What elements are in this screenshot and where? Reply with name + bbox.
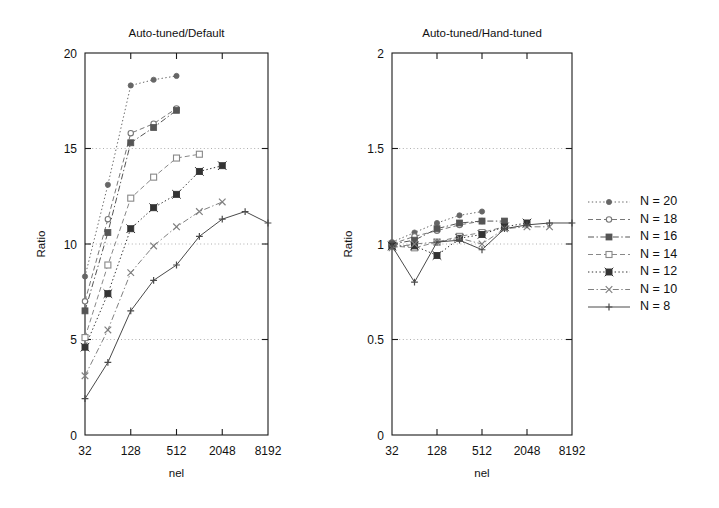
marker-cross-x bbox=[127, 269, 134, 276]
marker-filled-square-x bbox=[218, 161, 227, 170]
marker-cross-x bbox=[479, 241, 486, 248]
series-line bbox=[85, 166, 222, 347]
x-axis-label: nel bbox=[169, 467, 184, 479]
x-tick-label: 128 bbox=[427, 444, 447, 458]
marker-filled-square-x bbox=[410, 242, 419, 251]
x-tick-label: 512 bbox=[472, 444, 492, 458]
marker-plus bbox=[82, 395, 89, 402]
marker-open-square bbox=[128, 195, 134, 201]
marker-cross-x bbox=[219, 199, 226, 206]
x-tick-label: 2048 bbox=[514, 444, 541, 458]
marker-filled-square bbox=[457, 220, 463, 226]
marker-filled-square bbox=[606, 234, 612, 240]
x-axis-label: nel bbox=[474, 467, 489, 479]
marker-filled-square bbox=[479, 218, 485, 224]
marker-open-square bbox=[174, 155, 180, 161]
marker-filled-square-x bbox=[478, 230, 487, 239]
legend-label-12: N = 12 bbox=[640, 264, 677, 278]
marker-cross-x bbox=[105, 327, 112, 334]
x-tick-label: 8192 bbox=[255, 444, 282, 458]
marker-filled-square-x bbox=[149, 203, 158, 212]
marker-open-square bbox=[105, 262, 111, 268]
legend-label-18: N = 18 bbox=[640, 212, 677, 226]
series-line bbox=[392, 221, 505, 244]
chart-svg-left: Auto-tuned/Default0510152032128512204881… bbox=[0, 0, 330, 508]
y-tick-label: 2 bbox=[377, 47, 384, 61]
marker-open-circle bbox=[606, 217, 611, 222]
marker-cross-x bbox=[173, 224, 180, 231]
y-tick-label: 0 bbox=[70, 429, 77, 443]
marker-filled-square-x bbox=[126, 224, 135, 233]
x-tick-label: 512 bbox=[166, 444, 186, 458]
marker-filled-square-x bbox=[172, 190, 181, 199]
series-line bbox=[85, 154, 199, 337]
y-tick-label: 1 bbox=[377, 238, 384, 252]
chart-title: Auto-tuned/Default bbox=[129, 27, 226, 39]
marker-filled-circle bbox=[82, 274, 87, 279]
marker-filled-square bbox=[434, 226, 440, 232]
marker-filled-square-x bbox=[195, 167, 204, 176]
legend-label-16: N = 16 bbox=[640, 229, 677, 243]
marker-cross-x bbox=[606, 286, 613, 293]
chart-svg-right: Auto-tuned/Hand-tuned00.511.523212851220… bbox=[320, 0, 620, 508]
marker-cross-x bbox=[196, 208, 203, 215]
marker-filled-circle bbox=[606, 199, 611, 204]
x-tick-label: 2048 bbox=[209, 444, 236, 458]
legend-svg: N = 20N = 18N = 16N = 14N = 12N = 10N = … bbox=[580, 0, 719, 508]
marker-plus bbox=[411, 279, 418, 286]
y-tick-label: 15 bbox=[64, 142, 78, 156]
marker-filled-circle bbox=[128, 83, 133, 88]
marker-filled-circle bbox=[434, 220, 439, 225]
marker-filled-square bbox=[105, 230, 111, 236]
legend-panel: N = 20N = 18N = 16N = 14N = 12N = 10N = … bbox=[580, 0, 719, 508]
marker-filled-circle bbox=[479, 209, 484, 214]
chart-panel-auto-tuned-default: Auto-tuned/Default0510152032128512204881… bbox=[0, 0, 330, 508]
marker-plus bbox=[104, 359, 111, 366]
marker-filled-square bbox=[128, 140, 134, 146]
marker-filled-square bbox=[502, 218, 508, 224]
marker-filled-square-x bbox=[81, 343, 90, 352]
marker-open-circle bbox=[105, 216, 110, 221]
marker-filled-square-x bbox=[104, 289, 113, 298]
marker-filled-square bbox=[174, 107, 180, 113]
marker-filled-square bbox=[82, 308, 88, 314]
legend-label-14: N = 14 bbox=[640, 247, 677, 261]
series-line bbox=[85, 212, 268, 399]
y-tick-label: 5 bbox=[70, 333, 77, 347]
chart-panel-auto-tuned-hand-tuned: Auto-tuned/Hand-tuned00.511.523212851220… bbox=[320, 0, 620, 508]
marker-filled-circle bbox=[151, 77, 156, 82]
x-tick-label: 32 bbox=[78, 444, 92, 458]
y-tick-label: 1.5 bbox=[367, 142, 384, 156]
marker-open-circle bbox=[128, 131, 133, 136]
marker-filled-square bbox=[151, 124, 157, 130]
marker-plus bbox=[569, 220, 576, 227]
chart-title: Auto-tuned/Hand-tuned bbox=[422, 27, 542, 39]
y-tick-label: 20 bbox=[64, 47, 78, 61]
marker-open-square bbox=[196, 151, 202, 157]
y-axis-label: Ratio bbox=[35, 231, 47, 258]
y-tick-label: 10 bbox=[64, 238, 78, 252]
marker-filled-circle bbox=[174, 73, 179, 78]
series-line bbox=[85, 76, 177, 277]
marker-open-circle bbox=[82, 299, 87, 304]
marker-filled-square-x bbox=[605, 268, 614, 277]
y-tick-label: 0 bbox=[377, 429, 384, 443]
marker-plus bbox=[546, 220, 553, 227]
marker-open-square bbox=[82, 335, 88, 341]
marker-plus bbox=[606, 304, 613, 311]
marker-plus bbox=[242, 208, 249, 215]
y-axis-label: Ratio bbox=[342, 231, 354, 258]
marker-open-square bbox=[606, 252, 612, 258]
legend-label-8: N = 8 bbox=[640, 299, 670, 313]
marker-filled-circle bbox=[457, 213, 462, 218]
figure-root: Auto-tuned/Default0510152032128512204881… bbox=[0, 0, 719, 508]
x-tick-label: 128 bbox=[121, 444, 141, 458]
legend-label-20: N = 20 bbox=[640, 194, 677, 208]
marker-open-square bbox=[151, 174, 157, 180]
legend-label-10: N = 10 bbox=[640, 282, 677, 296]
marker-filled-square-x bbox=[433, 251, 442, 260]
y-tick-label: 0.5 bbox=[367, 333, 384, 347]
marker-filled-circle bbox=[105, 182, 110, 187]
x-tick-label: 32 bbox=[385, 444, 399, 458]
marker-plus bbox=[265, 220, 272, 227]
